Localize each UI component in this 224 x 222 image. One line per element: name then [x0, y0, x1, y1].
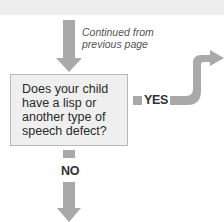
- question-text: Does your child have a lisp or another t…: [22, 82, 126, 138]
- incoming-arrow-icon: [56, 20, 82, 72]
- yes-connector-stub: [133, 96, 142, 105]
- yes-label: YES: [144, 93, 168, 107]
- question-box: Does your child have a lisp or another t…: [10, 74, 128, 146]
- yes-arrow-icon: [170, 50, 224, 105]
- no-arrow-icon: [57, 182, 81, 222]
- continued-note-line2: previous page: [82, 38, 154, 50]
- no-label: NO: [61, 164, 79, 178]
- no-connector-stub: [63, 150, 75, 158]
- continued-note: Continued from previous page: [82, 26, 154, 50]
- continued-note-line1: Continued from: [82, 26, 154, 38]
